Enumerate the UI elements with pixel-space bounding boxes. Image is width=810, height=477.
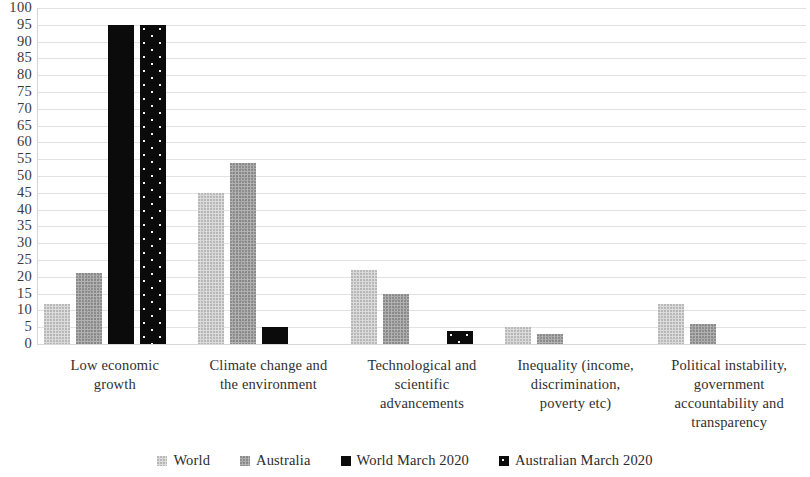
x-axis-label: Political instability,governmentaccounta… bbox=[652, 352, 806, 433]
y-axis-tick-label: 10 bbox=[17, 303, 32, 318]
bar bbox=[505, 327, 531, 344]
y-axis-tick-label: 45 bbox=[17, 185, 32, 200]
y-axis-tick-label: 75 bbox=[17, 84, 32, 99]
bar bbox=[230, 163, 256, 344]
bar-group bbox=[652, 8, 806, 344]
y-axis-tick-label: 25 bbox=[17, 252, 32, 267]
bar bbox=[537, 334, 563, 344]
y-axis-tick-label: 60 bbox=[17, 135, 32, 150]
bar bbox=[383, 294, 409, 344]
x-axis-label-line: government bbox=[656, 375, 802, 394]
y-axis-tick-label: 65 bbox=[17, 118, 32, 132]
chart-legend: WorldAustraliaWorld March 2020Australian… bbox=[0, 452, 810, 469]
legend-swatch-icon bbox=[240, 456, 250, 466]
y-axis-tick-label: 15 bbox=[17, 286, 32, 301]
bar bbox=[108, 25, 134, 344]
legend-label: World March 2020 bbox=[357, 452, 469, 469]
legend-swatch-icon bbox=[157, 456, 167, 466]
y-axis-tick-label: 40 bbox=[17, 202, 32, 217]
x-axis-label-line: scientific bbox=[349, 375, 495, 394]
legend-label: Australia bbox=[256, 452, 311, 469]
bar bbox=[76, 273, 102, 344]
bar-group bbox=[38, 8, 192, 344]
y-axis-tick-label: 35 bbox=[17, 219, 32, 234]
x-axis-label: Inequality (income,discrimination,povert… bbox=[499, 352, 653, 433]
bar-group bbox=[192, 8, 346, 344]
y-axis: 0510152025303540455055606570758085909510… bbox=[0, 0, 34, 352]
x-axis-label-line: accountability and bbox=[656, 394, 802, 413]
y-axis-tick-label: 90 bbox=[17, 34, 32, 49]
legend-label: Australian March 2020 bbox=[515, 452, 653, 469]
x-axis-label: Low economicgrowth bbox=[38, 352, 192, 433]
y-axis-tick-label: 80 bbox=[17, 68, 32, 83]
bar-groups bbox=[38, 8, 806, 344]
x-axis-label-line: transparency bbox=[656, 413, 802, 432]
bar-group bbox=[499, 8, 653, 344]
x-axis-label: Climate change andthe environment bbox=[192, 352, 346, 433]
legend-item[interactable]: World March 2020 bbox=[341, 452, 469, 469]
y-axis-tick-label: 55 bbox=[17, 152, 32, 167]
x-axis-label-line: poverty etc) bbox=[503, 394, 649, 413]
y-axis-tick-label: 70 bbox=[17, 101, 32, 116]
bar bbox=[658, 304, 684, 344]
x-axis-label-line: Political instability, bbox=[656, 356, 802, 375]
y-axis-tick-label: 95 bbox=[17, 17, 32, 32]
x-axis-labels: Low economicgrowthClimate change andthe … bbox=[38, 352, 806, 433]
x-axis-label-line: Inequality (income, bbox=[503, 356, 649, 375]
x-axis-label-line: Technological and bbox=[349, 356, 495, 375]
plot-area: 0510152025303540455055606570758085909510… bbox=[0, 0, 810, 352]
bar-chart: 0510152025303540455055606570758085909510… bbox=[0, 0, 810, 477]
y-axis-tick-label: 0 bbox=[24, 336, 32, 351]
x-axis-label-line: growth bbox=[42, 375, 188, 394]
x-axis-label-line: Climate change and bbox=[196, 356, 342, 375]
legend-item[interactable]: World bbox=[157, 452, 210, 469]
legend-item[interactable]: Australian March 2020 bbox=[499, 452, 653, 469]
legend-swatch-icon bbox=[341, 456, 351, 466]
x-axis-label-line: the environment bbox=[196, 375, 342, 394]
legend-item[interactable]: Australia bbox=[240, 452, 311, 469]
legend-swatch-icon bbox=[499, 456, 509, 466]
y-axis-tick-label: 85 bbox=[17, 51, 32, 66]
bar bbox=[140, 25, 166, 344]
legend-label: World bbox=[173, 452, 210, 469]
x-axis-label-line: Low economic bbox=[42, 356, 188, 375]
y-axis-tick-label: 100 bbox=[9, 0, 32, 15]
y-axis-tick-label: 20 bbox=[17, 269, 32, 284]
x-axis-label-line: advancements bbox=[349, 394, 495, 413]
bar bbox=[351, 270, 377, 344]
bar bbox=[262, 327, 288, 344]
bar bbox=[44, 304, 70, 344]
bar bbox=[447, 331, 473, 344]
bar-group bbox=[345, 8, 499, 344]
y-axis-tick-label: 5 bbox=[24, 320, 32, 335]
bar bbox=[198, 193, 224, 344]
y-axis-tick-label: 50 bbox=[17, 168, 32, 183]
bar bbox=[690, 324, 716, 344]
x-axis-label: Technological andscientificadvancements bbox=[345, 352, 499, 433]
axis-baseline bbox=[38, 344, 806, 345]
x-axis-label-line: discrimination, bbox=[503, 375, 649, 394]
y-axis-tick-label: 30 bbox=[17, 236, 32, 251]
